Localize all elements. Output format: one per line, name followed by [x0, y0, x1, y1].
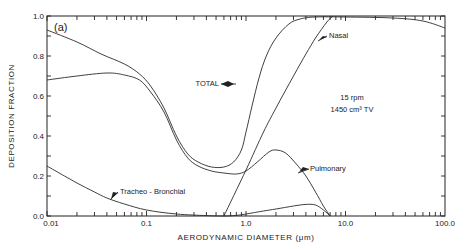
x-tick-label: 100.0	[435, 219, 456, 228]
series-nasal-line	[224, 16, 333, 216]
plot-frame	[47, 16, 445, 216]
annotation-total: TOTAL	[196, 79, 219, 88]
y-tick-label: 0.0	[33, 212, 45, 221]
y-tick-label: 0.4	[33, 132, 45, 141]
annotations: TOTAL Nasal Pulmonary Tracheo - Bronchia…	[110, 31, 349, 200]
panel-label: (a)	[54, 21, 67, 33]
x-tick-label: 0.1	[141, 219, 153, 228]
x-tick-label: 1.0	[240, 219, 252, 228]
y-tick-label: 0.8	[33, 52, 45, 61]
labels: (a) AERODYNAMIC DIAMETER (μm) DEPOSITION…	[7, 21, 373, 242]
x-tick-label: 0.01	[43, 219, 59, 228]
curves	[47, 16, 445, 216]
y-tick-label: 0.6	[33, 92, 45, 101]
y-axis-label: DEPOSITION FRACTION	[7, 64, 16, 168]
condition-line-2: 1450 cm³ TV	[331, 105, 374, 114]
x-axis-label: AERODYNAMIC DIAMETER (μm)	[178, 233, 315, 242]
deposition-chart: 0.010.11.010.0100.00.00.20.40.60.81.0 (a…	[0, 0, 475, 249]
axes	[47, 16, 445, 216]
y-tick-label: 1.0	[33, 12, 45, 21]
annotation-tracheo-bronchial: Tracheo - Bronchial	[120, 187, 186, 196]
x-tick-label: 10.0	[338, 219, 354, 228]
y-tick-label: 0.2	[33, 172, 45, 181]
annotation-pulmonary: Pulmonary	[310, 164, 346, 173]
series-tracheo-bronchial-line	[47, 166, 330, 216]
annotation-nasal: Nasal	[329, 31, 349, 40]
ticks: 0.010.11.010.0100.00.00.20.40.60.81.0	[33, 12, 456, 228]
series-total-line	[47, 17, 445, 168]
series-pulmonary-line	[47, 73, 330, 216]
condition-line-1: 15 rpm	[340, 93, 363, 102]
